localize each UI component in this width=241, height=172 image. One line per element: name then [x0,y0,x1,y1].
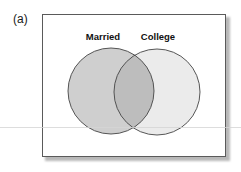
venn-diagram: Married College [0,0,241,172]
scan-artifact-line [0,127,241,128]
married-label: Married [86,31,121,42]
college-label: College [141,31,175,42]
